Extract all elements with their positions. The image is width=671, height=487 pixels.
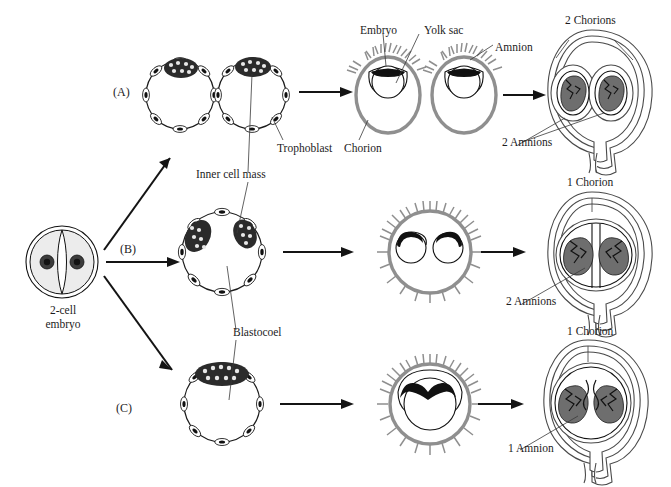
- blastocyst-a-2: [215, 57, 290, 132]
- inner-cell-mass-c: [195, 362, 249, 386]
- annotation-embryo: Embryo: [360, 24, 397, 37]
- pathway-label-b: (B): [120, 243, 136, 257]
- leader-chorion: [359, 120, 368, 140]
- uterus-c-monochorionic-monoamniotic: [520, 340, 648, 485]
- outcome-chorions-a: 2 Chorions: [565, 14, 616, 27]
- leader-blastocoel-b: [227, 266, 236, 330]
- arrow-c-mid: [280, 399, 354, 409]
- branch-arrow-to-a: [104, 158, 170, 250]
- outcome-chorions-b: 1 Chorion: [567, 176, 613, 189]
- uterus-a-dichorionic-diamniotic: [518, 30, 652, 175]
- outcome-chorions-c: 1 Chorion: [567, 325, 613, 338]
- annotation-amnion: Amnion: [495, 41, 533, 54]
- pathway-label-c: (C): [116, 402, 132, 416]
- annotation-inner-cell-mass: Inner cell mass: [196, 168, 266, 181]
- blastocyst-a-1: [143, 58, 218, 133]
- two-cell-embryo-figure: [26, 226, 98, 298]
- outcome-amnions-a: 2 Amnions: [502, 136, 552, 149]
- inner-cell-mass-b-right: [229, 216, 262, 252]
- inner-cell-mass-a1: [164, 58, 198, 78]
- annotation-trophoblast: Trophoblast: [277, 142, 332, 155]
- outcome-amnions-c: 1 Amnion: [508, 442, 554, 455]
- two-cell-embryo-label-line2: embryo: [30, 318, 96, 331]
- blastocyst-c: [181, 362, 264, 446]
- twinning-diagram: 2-cell embryo (A) (B) (C) Embryo Yolk sa…: [0, 0, 671, 487]
- arrow-c-right: [478, 399, 524, 409]
- annotation-blastocoel: Blastocoel: [233, 326, 282, 339]
- arrow-b-right: [481, 247, 526, 257]
- branch-arrow-to-b: [106, 257, 180, 267]
- diagram-canvas: [0, 0, 671, 487]
- chorionic-vesicle-a-2: [423, 43, 502, 133]
- arrow-b-mid: [283, 247, 354, 257]
- blastocyst-b: [178, 208, 265, 295]
- inner-cell-mass-a2: [235, 57, 271, 77]
- chorionic-vesicle-c: [377, 354, 483, 455]
- two-cell-embryo-label-line1: 2-cell: [30, 304, 96, 317]
- chorionic-vesicle-a-1: [347, 43, 426, 133]
- annotation-yolk-sac: Yolk sac: [424, 24, 463, 37]
- chorionic-vesicle-b: [377, 201, 483, 303]
- arrow-a-mid: [299, 87, 353, 97]
- outcome-amnions-b: 2 Amnions: [506, 295, 556, 308]
- annotation-chorion: Chorion: [344, 142, 382, 155]
- pathway-label-a: (A): [113, 86, 130, 100]
- arrow-a-right: [503, 90, 546, 100]
- leader-icm-a: [248, 74, 252, 172]
- uterus-b-monochorionic-diamniotic: [522, 192, 652, 337]
- branch-arrow-to-c: [104, 276, 172, 370]
